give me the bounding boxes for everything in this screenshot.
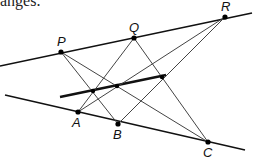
pappus-diagram: P Q R A B C	[0, 0, 257, 160]
intersection-point-3	[160, 75, 164, 79]
point-R	[222, 14, 227, 19]
point-Q	[131, 35, 136, 40]
point-B	[115, 121, 120, 126]
label-A: A	[71, 115, 81, 130]
segment-QA	[78, 38, 134, 112]
intersection-point-1	[91, 89, 95, 93]
label-P: P	[57, 34, 66, 49]
segment-RA	[78, 17, 225, 112]
label-B: B	[113, 127, 122, 142]
segment-PC	[61, 52, 208, 142]
point-C	[205, 139, 210, 144]
point-A	[75, 109, 80, 114]
intersection-point-2	[115, 84, 119, 88]
pappus-line	[60, 75, 166, 97]
top-line	[0, 13, 252, 66]
point-P	[58, 49, 63, 54]
label-R: R	[221, 0, 230, 14]
label-C: C	[203, 145, 213, 160]
segment-PB	[61, 52, 118, 124]
label-Q: Q	[129, 20, 139, 35]
